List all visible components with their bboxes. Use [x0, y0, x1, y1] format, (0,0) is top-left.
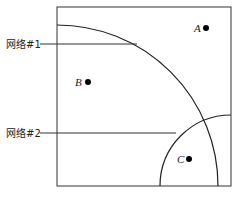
point-b-label: B [75, 76, 82, 88]
point-c-marker [186, 156, 192, 162]
network-2-label: 网络#2 [6, 127, 41, 139]
area-boundary [57, 7, 231, 186]
network-1-coverage-arc [0, 25, 218, 197]
point-c-label: C [177, 153, 185, 165]
point-b-marker [85, 79, 91, 85]
point-a-label: A [193, 22, 201, 34]
network-1-label: 网络#1 [6, 38, 41, 50]
network-2-coverage-arc [160, 115, 238, 197]
point-a-marker [203, 25, 209, 31]
coverage-diagram: 网络#1 网络#2 A B C [0, 0, 238, 197]
